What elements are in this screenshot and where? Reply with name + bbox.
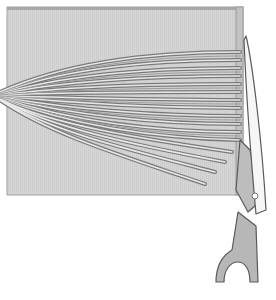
scissors-pivot xyxy=(252,193,258,199)
illustration xyxy=(0,0,276,300)
scissors-handle xyxy=(216,212,258,282)
